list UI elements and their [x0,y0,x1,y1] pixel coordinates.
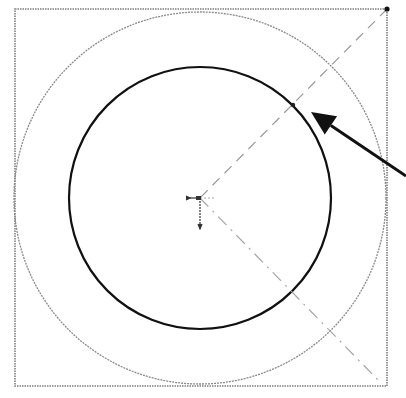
construction-diagonal-lower[interactable] [200,198,380,382]
intersection-point[interactable] [291,103,295,107]
origin-icon [186,196,215,229]
callout-arrow-icon [311,112,406,176]
sketch-canvas [0,0,406,398]
corner-point[interactable] [384,6,389,11]
